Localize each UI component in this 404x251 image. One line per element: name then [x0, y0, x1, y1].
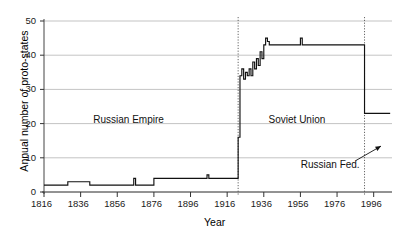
x-tick-label-1916: 1916: [214, 198, 235, 209]
annotation-russian-fed: Russian Fed.: [301, 159, 360, 170]
x-tick-label-1836: 1836: [68, 198, 89, 209]
x-tick-label-1936: 1936: [251, 198, 272, 209]
x-tick-label-1896: 1896: [178, 198, 199, 209]
annotation-soviet-union: Soviet Union: [269, 114, 326, 125]
annotation-russian-empire: Russian Empire: [93, 114, 164, 125]
x-axis-label: Year: [204, 216, 225, 228]
x-tick-label-1876: 1876: [141, 198, 162, 209]
x-tick-label-1956: 1956: [287, 198, 308, 209]
x-axis-ticks: [44, 192, 374, 197]
x-tick-label-1996: 1996: [361, 198, 382, 209]
y-axis-ticks: [40, 21, 44, 192]
y-axis-label: Annual number of proto-states: [18, 16, 30, 186]
y-tick-label-0: 0: [14, 186, 36, 197]
x-tick-label-1816: 1816: [31, 198, 52, 209]
x-tick-label-1856: 1856: [104, 198, 125, 209]
chart-canvas: [0, 0, 404, 251]
chart-figure: 1816183618561876189619161936195619761996…: [0, 0, 404, 251]
x-tick-label-1976: 1976: [324, 198, 345, 209]
